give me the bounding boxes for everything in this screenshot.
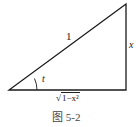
adjacent-side-label: √1−x²	[56, 94, 80, 103]
triangle	[9, 4, 126, 90]
angle-label: t	[42, 74, 45, 84]
figure-caption: 图 5-2	[52, 112, 80, 123]
angle-arc	[35, 79, 38, 91]
opposite-side-label: x	[129, 40, 133, 50]
radicand: 1−x²	[61, 92, 80, 103]
right-triangle-diagram	[0, 0, 136, 127]
hypotenuse-label: 1	[66, 31, 72, 42]
